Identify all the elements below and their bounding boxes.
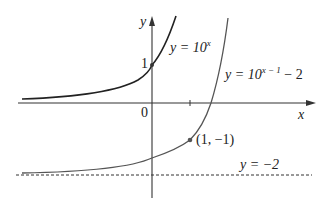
- curve-10-pow-x: [22, 16, 176, 99]
- plot-area: [0, 0, 332, 210]
- chart-figure: y x 0 1 y = 10x y = 10x − 1 − 2 (1, −1) …: [0, 0, 332, 210]
- point-label: (1, −1): [196, 133, 234, 147]
- origin-label: 0: [141, 106, 148, 120]
- y-value-1-label: 1: [141, 57, 148, 71]
- x-axis-label: x: [298, 108, 304, 122]
- y-axis-label: y: [140, 15, 146, 29]
- point-1-neg1: [188, 138, 193, 143]
- point-0-1: [150, 63, 154, 67]
- y-axis-arrow-icon: [149, 16, 155, 26]
- curve1-label: y = 10x: [170, 39, 211, 55]
- curve2-label: y = 10x − 1 − 2: [225, 66, 303, 82]
- x-axis-arrow-icon: [306, 100, 316, 106]
- asymptote-label: y = −2: [240, 158, 279, 172]
